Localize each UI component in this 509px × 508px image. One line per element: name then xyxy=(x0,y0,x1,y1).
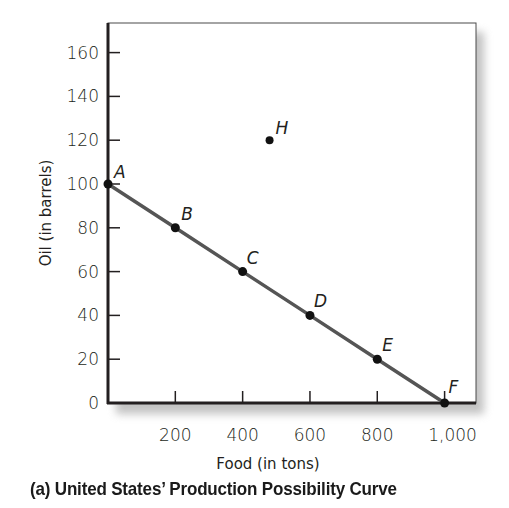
production-possibility-chart: 020406080100120140160 2004006008001,000 … xyxy=(0,0,509,478)
point-label: B xyxy=(181,204,193,224)
y-tick-label: 60 xyxy=(77,262,99,282)
y-tick-label: 140 xyxy=(67,86,99,106)
data-point xyxy=(238,267,247,276)
data-point xyxy=(171,223,180,232)
figure-caption: (a) United States’ Production Possibilit… xyxy=(30,478,397,500)
point-h xyxy=(266,136,274,144)
point-label: A xyxy=(113,162,126,182)
point-label: C xyxy=(247,248,259,268)
plot-frame xyxy=(108,23,476,403)
point-h-label: H xyxy=(276,118,289,138)
y-tick-label: 0 xyxy=(88,393,99,413)
y-tick-label: 160 xyxy=(67,43,99,63)
y-tick-label: 120 xyxy=(67,130,99,150)
y-tick-label: 40 xyxy=(77,305,99,325)
x-tick-label: 800 xyxy=(361,425,393,445)
x-tick-label: 400 xyxy=(226,425,258,445)
x-axis-title: Food (in tons) xyxy=(216,455,319,473)
point-label: F xyxy=(449,377,459,397)
data-point xyxy=(305,311,314,320)
data-point xyxy=(104,180,113,189)
data-point xyxy=(440,399,449,408)
x-tick-label: 200 xyxy=(159,425,191,445)
x-tick-label: 1,000 xyxy=(428,425,477,445)
point-label: E xyxy=(382,335,393,355)
y-axis-title: Oil (in barrels) xyxy=(37,160,55,267)
y-tick-label: 80 xyxy=(77,218,99,238)
data-point xyxy=(373,355,382,364)
y-tick-label: 20 xyxy=(77,349,99,369)
x-tick-label: 600 xyxy=(294,425,326,445)
point-label: D xyxy=(314,291,327,311)
y-tick-label: 100 xyxy=(67,174,99,194)
